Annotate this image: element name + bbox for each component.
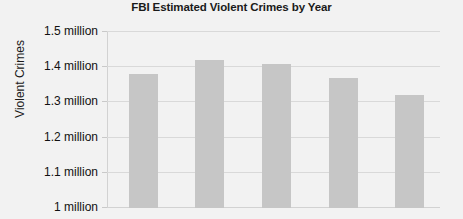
- bar: [329, 78, 358, 208]
- y-axis-tick-label: 1.1 million: [11, 165, 107, 179]
- bar: [195, 60, 224, 208]
- y-axis-tick-mark: [102, 31, 107, 32]
- y-axis-tick-labels: 1.5 million1.4 million1.3 million1.2 mil…: [0, 0, 107, 219]
- y-axis-tick-label: 1.2 million: [11, 130, 107, 144]
- bar: [129, 74, 158, 208]
- y-axis-tick-label: 1.3 million: [11, 94, 107, 108]
- bars-layer: [107, 31, 440, 208]
- y-axis-tick-label: 1.4 million: [11, 59, 107, 73]
- y-axis-tick-mark: [102, 101, 107, 102]
- y-axis-tick-label: 1.5 million: [11, 24, 107, 38]
- y-axis-tick-mark: [102, 66, 107, 67]
- violent-crimes-bar-chart: FBI Estimated Violent Crimes by Year Vio…: [0, 0, 463, 219]
- y-axis-tick-label: 1 million: [11, 200, 107, 214]
- y-axis-tick-mark: [102, 172, 107, 173]
- bar: [262, 64, 291, 208]
- bar: [395, 95, 424, 208]
- y-axis-tick-mark: [102, 207, 107, 208]
- y-axis-tick-mark: [102, 137, 107, 138]
